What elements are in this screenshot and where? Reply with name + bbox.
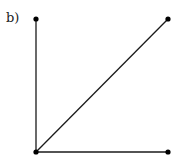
diagram-canvas	[0, 0, 179, 165]
point-bottom-left	[33, 149, 38, 154]
edges-group	[36, 19, 168, 152]
edge-bottom-left-to-top-right	[36, 19, 168, 152]
point-top-left	[33, 16, 38, 21]
point-bottom-right	[165, 149, 170, 154]
point-top-right	[165, 16, 170, 21]
